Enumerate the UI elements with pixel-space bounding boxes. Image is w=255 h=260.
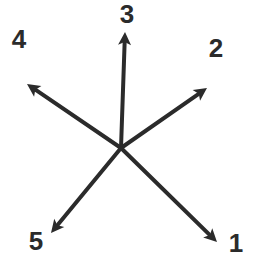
arrow-shaft [121,94,198,148]
arrow-label-5: 5 [29,226,43,256]
arrow-shaft [58,148,121,225]
arrow-5 [51,148,121,233]
arrow-2 [121,88,207,148]
arrow-diagram: 12345 [0,0,255,260]
arrow-label-1: 1 [229,228,243,258]
arrows-group [27,32,217,242]
arrow-label-3: 3 [120,0,134,29]
arrow-3 [118,32,131,148]
arrow-shaft [121,43,125,148]
arrow-shaft [36,90,121,148]
arrow-1 [121,148,217,242]
arrow-label-4: 4 [12,24,27,54]
arrow-4 [27,84,121,148]
arrow-shaft [121,148,209,234]
arrow-label-2: 2 [209,33,223,63]
